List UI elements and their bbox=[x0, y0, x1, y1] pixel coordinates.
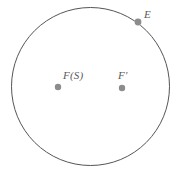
point-marker-fs bbox=[55, 84, 61, 90]
circle-outline bbox=[12, 8, 170, 166]
point-marker-f-prime bbox=[119, 85, 125, 91]
point-label-f-prime: F′ bbox=[118, 70, 128, 81]
point-label-fs: F(S) bbox=[63, 70, 83, 81]
point-marker-e bbox=[135, 19, 142, 26]
geometry-figure: F(S) F′ E bbox=[0, 0, 185, 181]
figure-canvas bbox=[0, 0, 185, 181]
point-label-e: E bbox=[144, 9, 151, 20]
